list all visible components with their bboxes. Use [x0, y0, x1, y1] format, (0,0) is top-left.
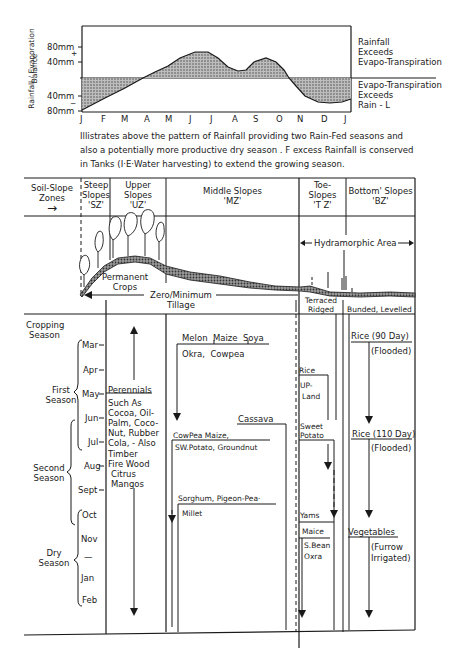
month-nov: Nov — [81, 534, 98, 544]
zone-steep-slopes: Steep Slopes 'SZ' — [81, 180, 111, 210]
crop-line: Nut, Rubber — [108, 428, 159, 438]
tick-neg80: 80mm — [47, 106, 74, 116]
crop-rice: Rice — [299, 366, 315, 375]
season-line: First — [44, 385, 78, 395]
legend-positive-line: Evapo-Transpiration — [358, 57, 442, 67]
crop-line: Palm, Coco- — [108, 418, 158, 428]
heading-line: Season — [26, 330, 64, 340]
crop-okra-cowpea: Okra, Cowpea — [182, 349, 244, 359]
crop-okra: Oxra — [304, 552, 322, 561]
dry-season-label: Dry Season — [36, 548, 72, 568]
month-label: D — [321, 114, 328, 124]
month-label: A — [232, 114, 238, 124]
season-line: Dry — [36, 548, 72, 558]
crop-furrow: (Furrow — [371, 542, 403, 552]
month-dec: — — [84, 552, 93, 562]
zone-line: Middle Slopes — [166, 186, 299, 196]
zone-line: Upper — [110, 180, 166, 190]
y-axis-label-2: Balance — [30, 39, 39, 99]
season-line: Season — [30, 473, 68, 483]
crop-melon-maize-soya: Melon Maize Soya — [182, 333, 264, 343]
zone-toe-slopes: Toe- Slopes 'T Z' — [299, 180, 346, 210]
zone-line: Slopes — [299, 190, 346, 200]
month-label: N — [297, 114, 303, 124]
heading-line: Cropping — [26, 320, 64, 330]
crop-flooded: (Flooded) — [371, 346, 411, 356]
month-label: M — [121, 114, 128, 124]
month-sept: Sept — [78, 485, 97, 495]
zone-line: Bottom' Slopes — [346, 186, 415, 196]
terraced-label: Terraced Ridged — [299, 296, 343, 314]
zone-line: 'SZ' — [81, 200, 111, 210]
permanent-crops-label: Permanent Crops — [100, 272, 150, 292]
month-label: J — [189, 114, 192, 124]
crop-line: Citrus — [111, 469, 136, 479]
month-jan: Jan — [81, 573, 94, 583]
label-line: Zero/Minimum — [146, 290, 216, 300]
crop-perennials: Perennials — [108, 385, 152, 395]
month-label: M — [165, 114, 172, 124]
crop-rice-90-day: Rice (90 Day) — [351, 331, 409, 341]
legend-negative-line: Exceeds — [358, 90, 393, 100]
crop-line: Cola, - Also — [108, 438, 156, 448]
crop-line: Mangos — [111, 479, 144, 489]
crop-sw-potato-groundnut: SW.Potato, Groundnut — [175, 443, 257, 452]
month-mar: Mar — [82, 340, 98, 350]
label-line: Permanent — [100, 272, 150, 282]
first-season-label: First Season — [44, 385, 78, 405]
crop-cassava: Cassava — [238, 414, 273, 424]
crop-sbean: S.Bean — [304, 541, 330, 550]
month-oct: Oct — [82, 510, 97, 520]
hydromorphic-label: Hydramorphic Area — [314, 238, 397, 248]
month-label: J — [344, 114, 347, 124]
tillage-label: Zero/Minimum Tillage — [146, 290, 216, 310]
bunded-label: Bunded, Levelled — [347, 305, 412, 314]
zone-line: Slopes — [81, 190, 111, 200]
zone-line: Slopes — [110, 190, 166, 200]
crop-yams: Yams — [300, 511, 319, 520]
crop-line: Fire Wood — [108, 459, 150, 469]
month-label: S — [253, 114, 258, 124]
crop-cowpea-maize: CowPea Maize, — [173, 431, 229, 440]
zone-middle-slopes: Middle Slopes 'MZ' — [166, 186, 299, 206]
label-line: Crops — [100, 282, 150, 292]
month-label: O — [276, 114, 283, 124]
crop-upland: UP- — [300, 381, 313, 390]
zone-line: 'UZ' — [110, 200, 166, 210]
month-jun: Jun — [85, 413, 98, 423]
season-line: Season — [44, 395, 78, 405]
cropping-season-heading: Cropping Season — [26, 320, 64, 340]
crop-vegetables: Vegetables — [348, 527, 395, 537]
legend-negative-line: Evapo-Transpiration — [358, 80, 442, 90]
caption-line: also a potentially more productive dry s… — [80, 145, 414, 155]
crop-flooded: (Flooded) — [371, 443, 411, 453]
crop-line: Timber — [108, 449, 138, 459]
zone-line: 'T Z' — [299, 200, 346, 210]
zones-label: Soil-Slope Zones → — [24, 183, 80, 213]
month-apr: Apr — [83, 365, 98, 375]
second-season-label: Second Season — [30, 463, 68, 483]
month-jul: Jul — [88, 437, 98, 447]
season-line: Season — [36, 558, 72, 568]
zone-line: 'BZ' — [346, 196, 415, 206]
crop-line: Cocoa, Oil- — [108, 408, 154, 418]
crop-maize: Maice — [302, 527, 324, 536]
crop-irrigated: Irrigated) — [371, 553, 411, 563]
label-line: Ridged — [299, 305, 343, 314]
label-line: Tillage — [146, 300, 216, 310]
tick-pos40: 40mm — [47, 57, 74, 67]
month-may: May — [82, 389, 100, 399]
zones-label-line: Soil-Slope — [24, 183, 80, 193]
crop-line: Such As — [108, 398, 142, 408]
month-label: J — [80, 114, 83, 124]
label-line: Terraced — [299, 296, 343, 305]
legend-negative-line: Rain - L — [358, 100, 390, 110]
y-axis-label-line2: Balance — [30, 54, 39, 84]
legend-positive-line: Rainfall — [358, 37, 390, 47]
month-feb: Feb — [82, 595, 97, 605]
zone-line: Toe- — [299, 180, 346, 190]
month-label: A — [144, 114, 150, 124]
zone-upper-slopes: Upper Slopes 'UZ' — [110, 180, 166, 210]
season-line: Second — [30, 463, 68, 473]
crop-sorghum-pigeon-pea: Sorghum, Pigeon-Pea· — [178, 494, 260, 503]
